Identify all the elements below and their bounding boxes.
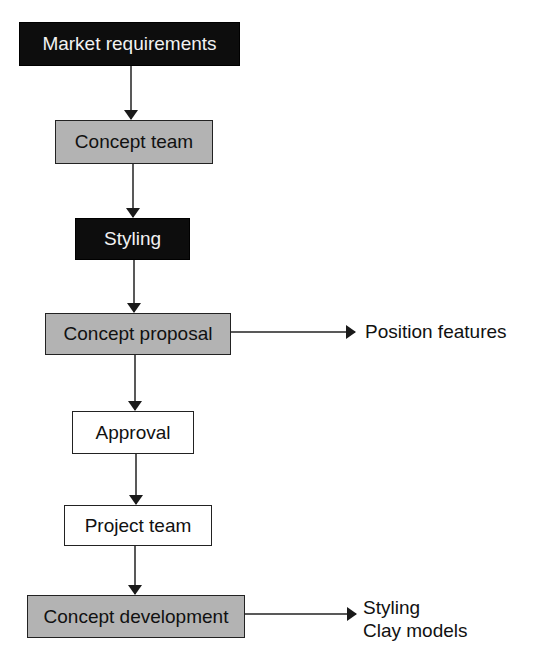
node-styling: Styling [75, 218, 190, 260]
node-label: Concept development [44, 606, 229, 628]
node-project-team: Project team [64, 505, 212, 546]
node-label: Concept proposal [64, 323, 213, 345]
output-styling: Styling [363, 596, 468, 619]
output-development-notes: Styling Clay models [363, 596, 468, 642]
node-concept-proposal: Concept proposal [45, 313, 231, 355]
node-label: Market requirements [42, 33, 216, 55]
node-label: Project team [85, 515, 192, 537]
node-concept-team: Concept team [55, 120, 213, 164]
node-concept-development: Concept development [27, 595, 245, 638]
output-position-features: Position features [365, 320, 507, 343]
node-approval: Approval [72, 411, 194, 454]
node-market-requirements: Market requirements [19, 22, 240, 66]
node-label: Approval [96, 422, 171, 444]
node-label: Concept team [75, 131, 193, 153]
node-label: Styling [104, 228, 161, 250]
output-clay-models: Clay models [363, 619, 468, 642]
